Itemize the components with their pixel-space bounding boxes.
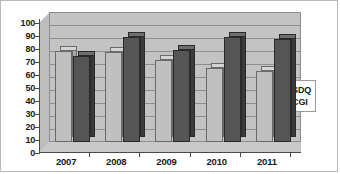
y-axis-tick — [35, 23, 40, 24]
y-axis-tick — [35, 153, 40, 154]
bar-cgi-2008[interactable] — [123, 37, 140, 142]
y-axis-tick — [35, 49, 40, 50]
bar-side — [140, 32, 145, 137]
bar-side — [90, 51, 95, 137]
x-axis-labels: 20072008200920102011 — [39, 156, 301, 170]
x-axis-tick-label: 2011 — [242, 156, 292, 167]
bar-cgi-2010[interactable] — [224, 37, 241, 142]
y-axis-tick-label: 10 — [25, 136, 35, 145]
y-axis-tick — [35, 114, 40, 115]
y-axis-line — [39, 19, 40, 153]
bar-series-container — [49, 12, 301, 153]
y-axis-tick-label: 100 — [21, 19, 35, 28]
y-axis-tick — [35, 140, 40, 141]
bar-cgi-2011[interactable] — [274, 39, 291, 142]
bar-face — [155, 60, 172, 142]
y-axis-tick — [35, 62, 40, 63]
plot-area — [39, 12, 301, 152]
bar-cgi-2007[interactable] — [73, 56, 90, 142]
bar-face — [105, 52, 122, 142]
y-axis-tick — [35, 101, 40, 102]
bar-side — [291, 34, 296, 137]
y-axis-tick-label: 20 — [25, 123, 35, 132]
y-axis-tick-label: 80 — [25, 45, 35, 54]
x-axis-tick-label: 2008 — [91, 156, 141, 167]
bar-face — [224, 37, 241, 142]
bar-cgi-2009[interactable] — [173, 50, 190, 142]
y-axis-tick-label: 60 — [25, 71, 35, 80]
bar-side — [241, 32, 246, 137]
bar-sdq-2009[interactable] — [155, 60, 172, 142]
y-axis-tick-label: 30 — [25, 110, 35, 119]
bar-sdq-2008[interactable] — [105, 52, 122, 142]
bar-group — [49, 12, 99, 153]
bar-group — [99, 12, 149, 153]
bar-sdq-2007[interactable] — [55, 51, 72, 142]
bar-face — [173, 50, 190, 142]
y-axis-labels: 0102030405060708090100 — [1, 12, 35, 162]
x-axis-tick-label: 2010 — [192, 156, 242, 167]
y-axis-tick-label: 40 — [25, 97, 35, 106]
bar-side — [190, 45, 195, 137]
chart-container: 0102030405060708090100 20072008200920102… — [0, 0, 338, 172]
y-axis-tick-label: 50 — [25, 84, 35, 93]
bar-face — [206, 68, 223, 142]
bar-face — [73, 56, 90, 142]
y-axis-tick-label: 90 — [25, 32, 35, 41]
bar-sdq-2011[interactable] — [256, 71, 273, 143]
x-axis-tick-label: 2009 — [141, 156, 191, 167]
bar-face — [256, 71, 273, 143]
bar-group — [250, 12, 300, 153]
y-axis-tick — [35, 88, 40, 89]
y-axis-tick — [35, 75, 40, 76]
bar-face — [55, 51, 72, 142]
bar-sdq-2010[interactable] — [206, 68, 223, 142]
x-axis-tick-label: 2007 — [41, 156, 91, 167]
bar-group — [200, 12, 250, 153]
bar-face — [123, 37, 140, 142]
y-axis-tick — [35, 127, 40, 128]
y-axis-tick-label: 70 — [25, 58, 35, 67]
bar-group — [149, 12, 199, 153]
y-axis-tick — [35, 36, 40, 37]
bar-face — [274, 39, 291, 142]
